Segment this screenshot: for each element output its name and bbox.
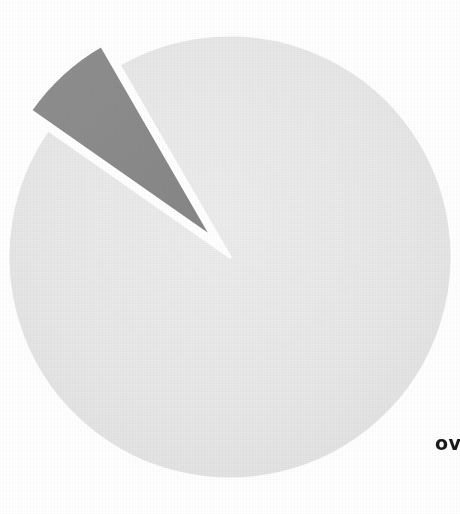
annotation-layer: ov bbox=[0, 0, 460, 514]
chart-canvas: ov bbox=[0, 0, 460, 514]
clipped-text-label: ov bbox=[435, 434, 460, 453]
